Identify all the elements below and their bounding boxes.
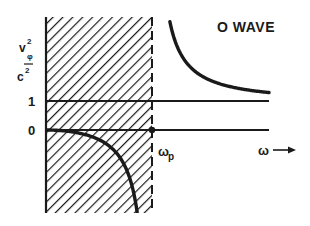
y-label-numerator: v	[19, 41, 26, 55]
omega-p-subscript: p	[168, 151, 174, 162]
hatched-region	[46, 17, 152, 213]
y-axis-label: v 2 φ c 2	[17, 37, 33, 84]
y-label-numerator-subscript: φ	[27, 52, 33, 61]
x-axis-arrow-icon	[273, 147, 296, 154]
x-axis-label: ω	[258, 143, 269, 158]
y-tick-label-one: 1	[28, 94, 35, 109]
o-wave-diagram: O WAVE v 2 φ c 2 1 0 ω p ω	[0, 0, 310, 226]
y-label-denominator: c	[17, 70, 24, 84]
y-label-numerator-superscript: 2	[27, 37, 32, 46]
y-label-denominator-superscript: 2	[25, 66, 30, 75]
y-tick-label-zero: 0	[28, 123, 35, 138]
chart-title: O WAVE	[217, 19, 275, 35]
omega-p-point	[149, 127, 155, 133]
